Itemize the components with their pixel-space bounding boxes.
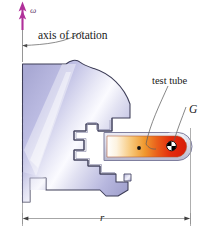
omega-label: ω	[30, 6, 36, 15]
figure-canvas: ω axis of rotation test tube G r	[0, 0, 207, 245]
axis-of-rotation-label: axis of rotation	[38, 30, 108, 42]
center-of-mass-label: G	[189, 104, 197, 116]
test-tube-label: test tube	[152, 76, 187, 87]
sample-dot	[137, 146, 141, 150]
radius-label: r	[100, 212, 104, 223]
omega-arrow	[19, 2, 27, 31]
center-of-mass-marker	[167, 141, 177, 151]
